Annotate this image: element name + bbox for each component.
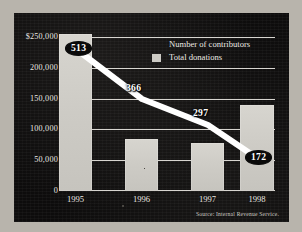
y-axis-labels: $250,000 200,000 150,000 100,000 50,000 … (14, 37, 58, 191)
y-tick-200000: 200,000 (30, 63, 58, 72)
x-tick-1996: 1996 (125, 194, 158, 204)
chart-panel: $250,000 200,000 150,000 100,000 50,000 … (14, 13, 289, 222)
y-tick-250000: $250,000 (26, 32, 58, 41)
x-tick-1998: 1998 (240, 194, 274, 204)
chart-page: $250,000 200,000 150,000 100,000 50,000 … (0, 0, 302, 232)
contributors-line (60, 37, 275, 191)
legend-swatch-icon (152, 54, 161, 62)
legend-label-contributors: Number of contributors (169, 39, 250, 49)
point-label-1996: 366 (126, 82, 141, 93)
x-axis-labels: 1995 1996 1997 1998 (60, 194, 275, 210)
point-label-1997: 297 (193, 107, 208, 118)
scan-speck (122, 205, 124, 207)
y-tick-50000: 50,000 (34, 155, 58, 164)
y-tick-150000: 150,000 (30, 94, 58, 103)
y-tick-100000: 100,000 (30, 124, 58, 133)
plot-area: 513 366 297 172 (60, 37, 275, 191)
y-tick-0: 0 (54, 186, 58, 195)
source-note: Source: Internal Revenue Service. (196, 211, 279, 217)
x-tick-1995: 1995 (59, 194, 92, 204)
legend-label-donations: Total donations (169, 52, 222, 62)
point-label-1995: 513 (65, 41, 92, 56)
point-label-1998: 172 (245, 150, 272, 165)
scan-speck (144, 168, 145, 169)
x-tick-1997: 1997 (191, 194, 224, 204)
